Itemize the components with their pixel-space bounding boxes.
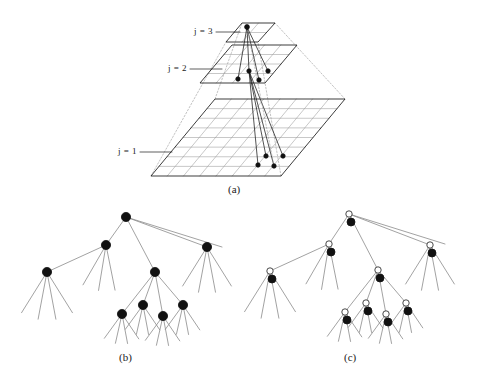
level-label-j1: j = 1 <box>118 146 137 156</box>
level-label-j2: j = 2 <box>168 63 187 73</box>
pyramid-node-level1-2 <box>272 164 276 168</box>
vertical-drop-guide <box>247 27 274 166</box>
pyramid-node-level3 <box>245 25 250 30</box>
pyramid-node-level1-1 <box>264 154 268 158</box>
frustum-edge <box>151 42 226 176</box>
tree-nodes <box>267 211 436 326</box>
tree-node-n7 <box>384 318 392 326</box>
tree-node-r <box>347 218 355 226</box>
tree-node-open-marker <box>363 300 369 306</box>
tree-node-n3 <box>428 249 436 257</box>
tree-node-open-marker <box>346 211 352 217</box>
tree-edge-n2-n5 <box>345 270 378 312</box>
tree-node-open-marker <box>427 242 433 248</box>
pyramid-node-level2-0 <box>236 77 240 81</box>
frustum-edge <box>258 42 281 176</box>
pyramid-parent-child-links <box>238 27 283 166</box>
tree-node-n2 <box>376 274 384 282</box>
tree-node-open-marker <box>403 300 409 306</box>
pyramid-node-level2-1 <box>247 69 251 73</box>
pyramid-nodes <box>236 25 285 169</box>
tree-node-n4 <box>268 275 276 283</box>
pyramid-level-3 <box>226 23 275 42</box>
frustum-edge <box>275 23 345 99</box>
tree-node-n1 <box>327 248 335 256</box>
pyramid-level-1 <box>151 99 345 176</box>
tree-node-n6 <box>364 307 372 315</box>
tree-node-open-marker <box>342 309 348 315</box>
tree-edge-n1-n4 <box>270 244 329 271</box>
figure-canvas: j = 1 j = 2 j = 3 (a) (b) (c) <box>0 0 486 384</box>
tree-node-n5 <box>343 316 351 324</box>
tree-node-open-marker <box>383 311 389 317</box>
tree-node-open-marker <box>326 241 332 247</box>
tree-node-n8 <box>404 307 412 315</box>
tree-node-open-marker <box>375 267 381 273</box>
pyramid-node-level1-0 <box>256 163 260 167</box>
pyramid-node-level2-3 <box>266 69 270 73</box>
panel-caption-c: (c) <box>344 351 356 363</box>
tree-edge-r-n1 <box>329 214 349 244</box>
level-label-j3: j = 3 <box>194 26 213 36</box>
pyramid-node-level2-2 <box>257 78 261 82</box>
pyramid-diagram <box>0 0 486 196</box>
tree-edge-root-leaf <box>349 214 445 244</box>
pyramid-node-level1-3 <box>281 154 285 158</box>
link-l2-l1-3 <box>249 71 283 156</box>
link-l3-l2-3 <box>247 27 268 71</box>
tree-node-open-marker <box>267 268 273 274</box>
tree-edge-r-n3 <box>349 214 430 245</box>
panel-caption-a: (a) <box>228 183 240 195</box>
level-label-leaders <box>140 32 240 152</box>
tree-edge-n2-n6 <box>366 270 378 303</box>
tree-c-diagram <box>0 200 486 360</box>
